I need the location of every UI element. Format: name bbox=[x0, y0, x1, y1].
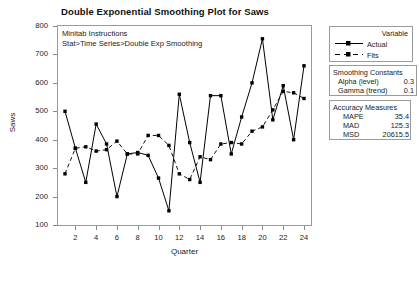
x-tick-mark bbox=[96, 226, 97, 230]
smoothing-gamma-value: 0.1 bbox=[396, 86, 414, 95]
y-tick-label: 200 bbox=[22, 192, 48, 201]
x-tick-label: 12 bbox=[171, 233, 187, 242]
accuracy-row-mad: MAD 125.3 bbox=[333, 121, 413, 130]
data-point-fits bbox=[115, 139, 118, 142]
data-point-fits bbox=[282, 90, 285, 93]
x-tick-mark bbox=[159, 226, 160, 230]
data-point-fits bbox=[209, 158, 212, 161]
plot-area bbox=[57, 25, 312, 226]
accuracy-mape-name: MAPE bbox=[333, 112, 364, 121]
y-tick-label: 300 bbox=[22, 163, 48, 172]
data-point-fits bbox=[250, 129, 253, 132]
accuracy-row-mape: MAPE 35.4 bbox=[333, 112, 413, 121]
data-point-actual bbox=[282, 84, 285, 87]
data-point-actual bbox=[167, 209, 170, 212]
data-point-actual bbox=[63, 110, 66, 113]
smoothing-constants-heading: Smoothing Constants bbox=[333, 68, 403, 77]
x-tick-label: 2 bbox=[67, 233, 83, 242]
smoothing-alpha-value: 0.3 bbox=[396, 77, 414, 86]
x-tick-label: 20 bbox=[254, 233, 270, 242]
data-point-actual bbox=[302, 64, 305, 67]
smoothing-row-gamma: Gamma (trend) 0.1 bbox=[333, 86, 419, 95]
smoothing-gamma-name: Gamma (trend) bbox=[333, 86, 387, 95]
legend-heading: Variable bbox=[382, 29, 408, 38]
data-point-fits bbox=[178, 172, 181, 175]
smoothing-alpha-name: Alpha (level) bbox=[333, 77, 379, 86]
data-point-fits bbox=[126, 152, 129, 155]
x-tick-mark bbox=[242, 226, 243, 230]
data-point-fits bbox=[84, 145, 87, 148]
data-point-fits bbox=[94, 149, 97, 152]
plot-series-svg bbox=[58, 26, 311, 225]
annotation-text: Minitab Instructions Stat>Time Series>Do… bbox=[62, 29, 202, 48]
x-tick-mark bbox=[117, 226, 118, 230]
data-point-fits bbox=[230, 141, 233, 144]
data-point-fits bbox=[136, 152, 139, 155]
legend-box: Variable Actual Fits bbox=[329, 26, 413, 62]
x-tick-mark bbox=[75, 226, 76, 230]
data-point-actual bbox=[292, 138, 295, 141]
legend-label-fits: Fits bbox=[364, 51, 379, 61]
data-point-actual bbox=[261, 37, 264, 40]
data-point-fits bbox=[74, 147, 77, 150]
y-tick-label: 400 bbox=[22, 135, 48, 144]
data-point-actual bbox=[219, 94, 222, 97]
data-point-actual bbox=[178, 93, 181, 96]
data-point-actual bbox=[94, 122, 97, 125]
data-point-fits bbox=[292, 91, 295, 94]
data-point-actual bbox=[157, 176, 160, 179]
accuracy-mad-name: MAD bbox=[333, 121, 359, 130]
data-point-actual bbox=[188, 141, 191, 144]
accuracy-mad-value: 125.3 bbox=[371, 121, 409, 130]
data-point-fits bbox=[240, 142, 243, 145]
data-point-actual bbox=[209, 94, 212, 97]
data-point-actual bbox=[146, 154, 149, 157]
data-point-fits bbox=[198, 155, 201, 158]
data-point-fits bbox=[302, 97, 305, 100]
data-point-actual bbox=[198, 181, 201, 184]
x-axis-label: Quarter bbox=[57, 247, 312, 256]
legend-label-actual: Actual bbox=[364, 40, 387, 50]
data-point-actual bbox=[230, 152, 233, 155]
data-point-fits bbox=[188, 178, 191, 181]
x-tick-mark bbox=[304, 226, 305, 230]
x-tick-label: 22 bbox=[275, 233, 291, 242]
x-tick-mark bbox=[221, 226, 222, 230]
x-tick-label: 4 bbox=[88, 233, 104, 242]
x-tick-label: 24 bbox=[296, 233, 312, 242]
x-tick-label: 14 bbox=[192, 233, 208, 242]
y-axis-label: Saws bbox=[8, 98, 17, 148]
data-point-fits bbox=[167, 144, 170, 147]
data-point-fits bbox=[105, 148, 108, 151]
accuracy-msd-name: MSD bbox=[333, 130, 359, 139]
x-tick-mark bbox=[179, 226, 180, 230]
x-tick-label: 16 bbox=[213, 233, 229, 242]
y-tick-label: 700 bbox=[22, 49, 48, 58]
data-point-fits bbox=[261, 125, 264, 128]
series-line-fits bbox=[65, 91, 304, 179]
series-line-actual bbox=[65, 39, 304, 211]
legend-swatch-fits bbox=[334, 50, 364, 62]
chart-title: Double Exponential Smoothing Plot for Sa… bbox=[0, 6, 330, 17]
accuracy-mape-value: 35.4 bbox=[371, 112, 409, 121]
data-point-fits bbox=[63, 172, 66, 175]
data-point-actual bbox=[105, 142, 108, 145]
data-point-fits bbox=[157, 134, 160, 137]
annotation-line-1: Minitab Instructions bbox=[62, 29, 202, 39]
data-point-actual bbox=[84, 181, 87, 184]
y-tick-label: 600 bbox=[22, 78, 48, 87]
x-tick-label: 8 bbox=[130, 233, 146, 242]
accuracy-measures-box: Accuracy Measures MAPE 35.4 MAD 125.3 MS… bbox=[329, 100, 411, 140]
annotation-line-2: Stat>Time Series>Double Exp Smoothing bbox=[62, 39, 202, 49]
data-point-fits bbox=[219, 142, 222, 145]
data-point-fits bbox=[271, 108, 274, 111]
chart-root: Double Exponential Smoothing Plot for Sa… bbox=[0, 0, 419, 283]
smoothing-row-alpha: Alpha (level) 0.3 bbox=[333, 77, 419, 86]
data-point-actual bbox=[240, 115, 243, 118]
accuracy-row-msd: MSD 20615.5 bbox=[333, 130, 413, 139]
data-point-actual bbox=[115, 195, 118, 198]
accuracy-measures-heading: Accuracy Measures bbox=[333, 103, 397, 112]
accuracy-msd-value: 20615.5 bbox=[371, 130, 409, 139]
data-point-actual bbox=[271, 118, 274, 121]
legend-item-fits: Fits bbox=[334, 50, 379, 60]
